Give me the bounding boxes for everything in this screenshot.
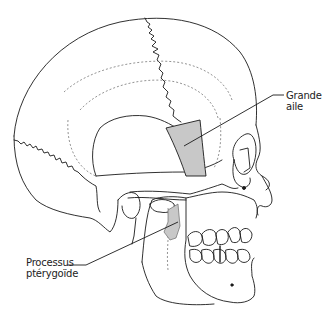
upper-teeth — [188, 228, 252, 247]
lambdoid-suture — [14, 140, 82, 176]
leader-line-processus — [68, 222, 178, 265]
label-processus-pterygoide: Processus ptérygoïde — [26, 257, 78, 279]
greater-wing-highlight — [166, 120, 206, 176]
inferior-temporal-line — [80, 80, 218, 118]
label-grande-aile-line2: aile — [286, 101, 322, 112]
label-grande-aile-line1: Grande — [286, 90, 322, 101]
superior-temporal-line — [64, 61, 232, 100]
temporal-fossa — [93, 116, 186, 177]
coronal-suture — [145, 18, 181, 122]
label-grande-aile: Grande aile — [286, 90, 322, 112]
label-processus-line1: Processus — [26, 257, 78, 268]
skull-diagram: Grande aile Processus ptérygoïde — [0, 0, 328, 317]
orbit — [233, 134, 256, 175]
label-processus-line2: ptérygoïde — [26, 268, 78, 279]
